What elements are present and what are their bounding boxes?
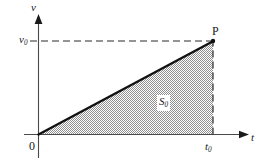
x-axis-arrowhead <box>239 131 249 138</box>
velocity-time-graph-figure: v t v0 t0 0 P S0 <box>0 0 269 167</box>
area-label-subscript: 0 <box>165 101 169 109</box>
y-axis-arrowhead <box>35 14 43 24</box>
x-axis-label: t <box>251 132 254 143</box>
y-tick-label-v0: v0 <box>19 34 28 48</box>
area-label-s0: S0 <box>157 95 170 111</box>
point-p-marker <box>211 39 215 43</box>
origin-label: 0 <box>29 140 35 152</box>
x-tick-subscript: 0 <box>208 146 212 154</box>
y-axis-label: v <box>31 2 36 13</box>
point-p-label: P <box>212 25 219 37</box>
graph-canvas <box>0 0 269 167</box>
x-tick-label-t0: t0 <box>205 141 212 155</box>
y-tick-subscript: 0 <box>24 39 28 47</box>
